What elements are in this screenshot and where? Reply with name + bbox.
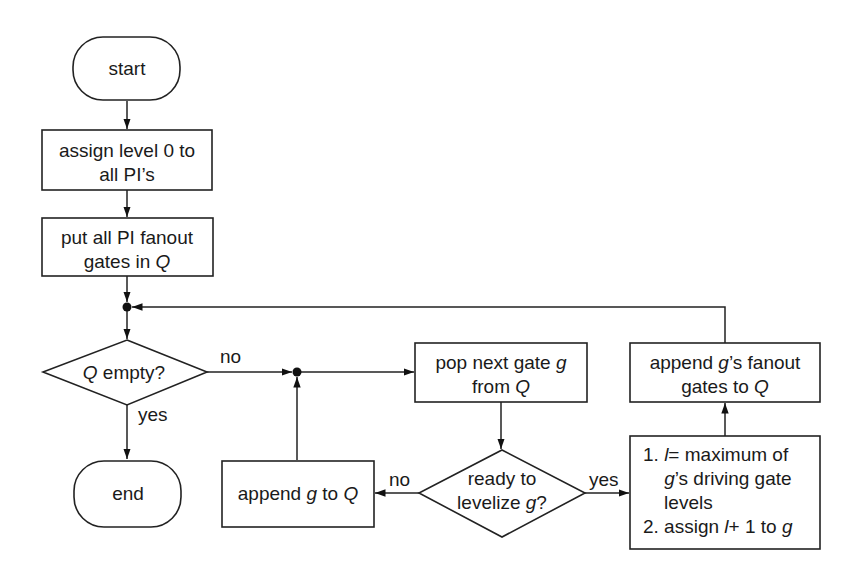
label-run: assign level 0 to	[59, 140, 195, 161]
flowchart-canvas: start assign level 0 toall PI’s put all …	[0, 0, 856, 576]
node-start: start	[73, 37, 180, 100]
append-g-label: append g to Q	[238, 483, 359, 504]
label-run: empty?	[98, 362, 166, 383]
label-run: 1.	[643, 444, 664, 465]
node-pop-gate: pop next gate gfrom Q	[415, 343, 587, 402]
label-run: levelize	[457, 492, 526, 513]
connectors	[123, 101, 726, 493]
label-run: ?	[536, 492, 547, 513]
label-run: Q	[754, 376, 769, 397]
junction-mid	[293, 368, 302, 377]
label-run: g	[718, 352, 729, 373]
label-run: gates to	[681, 376, 754, 397]
label-run: append	[238, 483, 307, 504]
label-run: g	[306, 483, 317, 504]
label-run: ’s driving gate	[675, 468, 792, 489]
label-run: g	[664, 468, 675, 489]
q-empty-no-label: no	[220, 346, 241, 367]
q-empty-yes-label: yes	[138, 404, 168, 425]
end-label: end	[112, 483, 144, 504]
label-run: Q	[515, 376, 530, 397]
label-run: pop next gate	[435, 352, 555, 373]
label-run: Q	[156, 251, 171, 272]
label-run: Q	[343, 483, 358, 504]
label-run: g	[526, 492, 537, 513]
node-append-g: append g to Q	[222, 461, 374, 527]
label-run: Q	[83, 362, 98, 383]
start-label: start	[109, 58, 147, 79]
label-run: to	[317, 483, 343, 504]
node-end: end	[74, 461, 181, 527]
node-levelize: 1. l= maximum of g’s driving gate levels…	[630, 436, 820, 549]
label-run: + 1 to	[729, 516, 782, 537]
label-run: 2. assign	[643, 516, 724, 537]
node-q-empty: Q empty?	[43, 340, 207, 405]
label-run: ready to	[468, 468, 537, 489]
ready-no-label: no	[389, 469, 410, 490]
label-run: all PI’s	[99, 164, 155, 185]
junction-top	[123, 303, 132, 312]
label-run: gates in	[84, 251, 156, 272]
node-put-fanout: put all PI fanoutgates in Q	[42, 218, 213, 276]
label-run: g	[556, 352, 567, 373]
ready-yes-label: yes	[589, 469, 619, 490]
node-assign-level: assign level 0 toall PI’s	[42, 130, 212, 190]
label-run: = maximum of	[668, 444, 789, 465]
label-run: from	[472, 376, 515, 397]
label-run	[643, 468, 664, 489]
node-ready: ready tolevelize g?	[419, 450, 585, 537]
label-run: ’s fanout	[729, 352, 801, 373]
node-append-fanout: append g’s fanoutgates to Q	[630, 343, 820, 402]
label-run: put all PI fanout	[61, 227, 194, 248]
label-run: g	[782, 516, 793, 537]
q-empty-label: Q empty?	[83, 362, 165, 383]
edge-fanout-loop-back	[132, 307, 725, 343]
label-run: levels	[643, 492, 713, 513]
label-run: append	[650, 352, 719, 373]
